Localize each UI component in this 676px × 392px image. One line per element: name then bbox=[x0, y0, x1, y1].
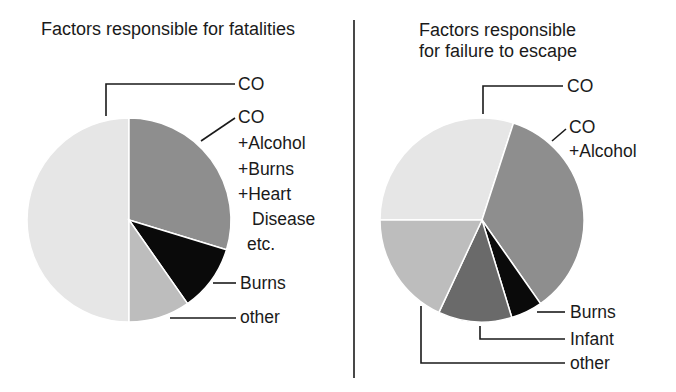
left-label-combo-1: CO bbox=[238, 105, 264, 130]
right-leader-co-alcohol bbox=[552, 129, 566, 141]
right-label-other: other bbox=[570, 351, 610, 376]
left-label-combo-3: +Burns bbox=[238, 157, 294, 182]
right-chart-title-line1: Factors responsible bbox=[419, 19, 576, 41]
left-pie bbox=[27, 118, 231, 322]
left-leader-co-combo bbox=[201, 118, 235, 141]
right-label-combo-1: CO bbox=[569, 115, 595, 140]
left-label-other: other bbox=[240, 305, 280, 330]
right-chart-title-line2: for failure to escape bbox=[419, 40, 577, 62]
left-label-burns: Burns bbox=[240, 271, 286, 296]
left-label-combo-2: +Alcohol bbox=[238, 131, 306, 156]
left-leader-co bbox=[106, 84, 235, 116]
right-label-co: CO bbox=[567, 74, 593, 99]
left-slice-co bbox=[27, 118, 129, 322]
left-label-combo-6: etc. bbox=[247, 232, 275, 257]
left-label-combo-4: +Heart bbox=[238, 182, 291, 207]
left-chart-title: Factors responsible for fatalities bbox=[41, 18, 295, 40]
right-label-combo-2: +Alcohol bbox=[569, 139, 637, 164]
left-label-combo-5: Disease bbox=[252, 207, 315, 232]
right-label-burns: Burns bbox=[570, 300, 616, 325]
right-label-infant: Infant bbox=[570, 327, 614, 352]
right-leader-co bbox=[483, 86, 563, 114]
left-label-co: CO bbox=[238, 72, 264, 97]
right-leader-infant bbox=[480, 326, 565, 339]
right-pie bbox=[380, 118, 584, 322]
